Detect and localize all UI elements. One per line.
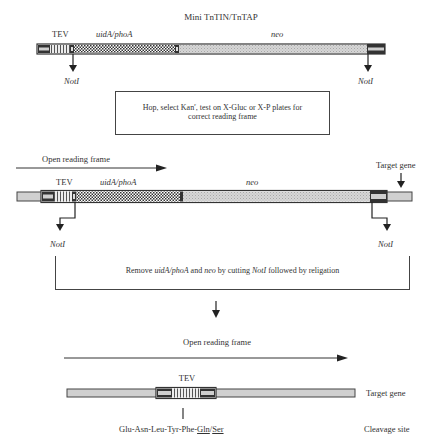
notI-label-left-2: NotI bbox=[50, 240, 65, 249]
target-gene-label-1: Target gene bbox=[376, 161, 416, 170]
diagram-graphics bbox=[0, 0, 442, 448]
target-gene-label-final: Target gene bbox=[366, 389, 406, 398]
step1-line1: Hop, select Kanr, test on X-Gluc or X-P … bbox=[116, 102, 329, 112]
cleavage-sequence: Glu-Asn-Leu-Tyr-Phe-Gln/Ser bbox=[119, 425, 224, 434]
step1-box: Hop, select Kanr, test on X-Gluc or X-P … bbox=[115, 91, 330, 135]
tev-label-final: TEV bbox=[179, 374, 196, 383]
construct1-bar bbox=[37, 44, 385, 54]
orf-arrow-1 bbox=[16, 165, 167, 172]
marker-label-2: neo bbox=[246, 178, 258, 187]
reporter-label-2: uidA/phoA bbox=[100, 178, 136, 187]
orf-arrow-2 bbox=[64, 355, 348, 362]
notI-arrow-right bbox=[364, 54, 372, 72]
diagram-title: Mini TnTIN/TnTAP bbox=[184, 13, 257, 22]
notI-label-right-1: NotI bbox=[358, 77, 373, 86]
cleavage-site-label: Cleavage site bbox=[364, 425, 410, 434]
tev-label-2: TEV bbox=[56, 178, 73, 187]
construct2-bar bbox=[17, 191, 412, 203]
step2-text: Remove uidA/phoA and neo by cutting NotI… bbox=[56, 267, 409, 275]
notI-elbow-left bbox=[56, 202, 75, 231]
notI-elbow-right bbox=[372, 202, 391, 231]
step1-line2: correct reading frame bbox=[116, 113, 329, 121]
notI-label-left-1: NotI bbox=[64, 77, 79, 86]
reporter-label-1: uidA/phoA bbox=[96, 30, 132, 39]
marker-label-1: neo bbox=[271, 30, 283, 39]
orf-label-2: Open reading frame bbox=[183, 338, 251, 347]
step2-box: Remove uidA/phoA and neo by cutting NotI… bbox=[55, 256, 410, 290]
final-target-bar bbox=[67, 388, 355, 399]
orf-label-1: Open reading frame bbox=[42, 155, 110, 164]
notI-label-right-2: NotI bbox=[378, 240, 393, 249]
tev-label-1: TEV bbox=[52, 30, 69, 39]
down-arrow bbox=[212, 301, 220, 318]
target-gene-arrow bbox=[397, 173, 405, 188]
notI-arrow-left bbox=[69, 54, 77, 72]
